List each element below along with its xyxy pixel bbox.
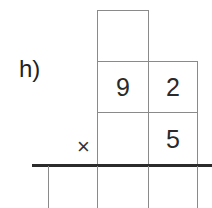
- multiplier-ones: 5: [148, 112, 198, 166]
- multiplicand-ones: 2: [148, 61, 198, 113]
- multiplier-tens[interactable]: [97, 112, 149, 166]
- multiplicand-tens: 9: [97, 61, 149, 113]
- result-hundreds[interactable]: [49, 168, 97, 208]
- multiply-sign: ×: [77, 134, 90, 160]
- result-divider: [32, 164, 212, 167]
- exercise-label: h): [19, 55, 40, 83]
- result-col-line: [197, 166, 198, 208]
- carry-cell[interactable]: [97, 10, 149, 62]
- result-tens[interactable]: [98, 168, 148, 208]
- result-ones[interactable]: [149, 168, 197, 208]
